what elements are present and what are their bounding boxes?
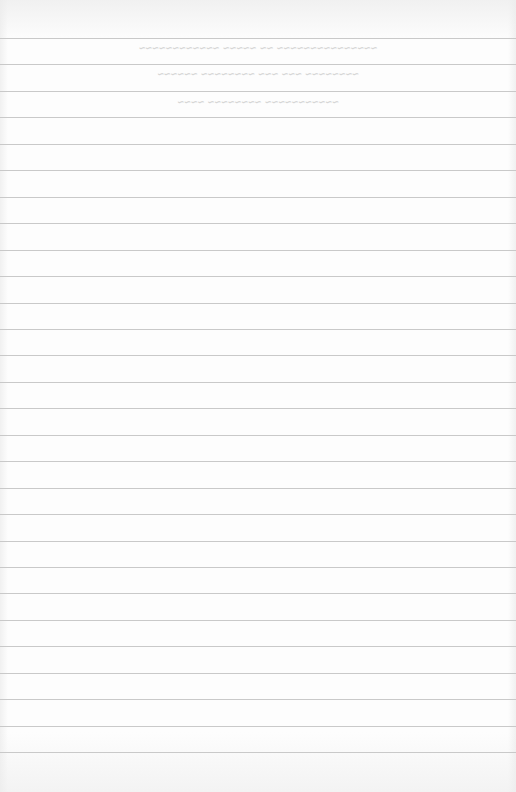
ruled-line xyxy=(0,620,516,621)
ruled-line xyxy=(0,250,516,251)
ruled-line xyxy=(0,461,516,462)
ruled-line xyxy=(0,699,516,700)
ruled-line xyxy=(0,38,516,39)
ruled-line xyxy=(0,197,516,198)
ruled-line xyxy=(0,170,516,171)
ruled-line xyxy=(0,646,516,647)
bleed-through-text: ~~~~~~~~~~~ ~~~~~~~~ ~~~~ xyxy=(0,96,516,108)
ruled-line xyxy=(0,408,516,409)
ruled-line xyxy=(0,514,516,515)
ruled-line xyxy=(0,488,516,489)
ruled-line xyxy=(0,276,516,277)
ruled-line xyxy=(0,673,516,674)
ruled-line xyxy=(0,435,516,436)
ruled-line xyxy=(0,752,516,753)
ruled-line xyxy=(0,329,516,330)
ruled-line xyxy=(0,64,516,65)
bleed-through-text: ~~~~~~~~~~~~~~~ ~~ ~~~~~ ~~~~~~~~~~~~ xyxy=(0,42,516,54)
ruled-line xyxy=(0,726,516,727)
ruled-line xyxy=(0,117,516,118)
ruled-line xyxy=(0,144,516,145)
bleed-through-text: ~~~~~~~~ ~~~ ~~~ ~~~~~~~~ ~~~~~~ xyxy=(0,68,516,80)
ruled-line xyxy=(0,567,516,568)
ruled-line xyxy=(0,303,516,304)
ruled-line xyxy=(0,593,516,594)
ruled-line xyxy=(0,223,516,224)
ruled-line xyxy=(0,541,516,542)
ruled-line xyxy=(0,355,516,356)
ruled-line xyxy=(0,91,516,92)
ruled-line xyxy=(0,382,516,383)
ruled-paper-page: ~~~~~~~~~~~~~~~ ~~ ~~~~~ ~~~~~~~~~~~~~~~… xyxy=(0,0,516,792)
